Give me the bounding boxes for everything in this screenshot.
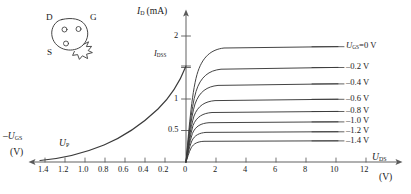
idss-subscript: DSS xyxy=(157,52,167,58)
curve-label-value: =0 V xyxy=(359,40,376,50)
y-axis-subscript: D xyxy=(140,10,144,16)
y-tick-0.5: 0.5 xyxy=(168,126,178,134)
x-right-tick-2: 2 xyxy=(213,166,217,174)
x-right-tick-12: 12 xyxy=(360,166,368,174)
output-curve-m14v xyxy=(186,141,338,162)
y-axis-label: ID(mA) xyxy=(137,6,167,17)
x-right-tick-4: 4 xyxy=(243,166,247,174)
curve-label-m04v: –0.4 V xyxy=(346,78,369,87)
x-left-axis-label: –UGS xyxy=(3,131,22,142)
x-left-symbol: U xyxy=(8,130,15,141)
curve-label-ugs-0v: UGS=0 V xyxy=(346,41,376,50)
curve-label-m10v: –1.0 V xyxy=(346,116,369,125)
x-left-tick-0.4: 0.4 xyxy=(138,166,148,174)
y-tick-2: 2 xyxy=(174,32,178,40)
x-right-subscript: DS xyxy=(379,156,387,162)
x-left-tick-1.2: 1.2 xyxy=(58,166,68,174)
figure-canvas: D G S ID(mA) 0.5 1 2 IDSS –UGS (V) UP 1.… xyxy=(0,0,411,194)
x-right-tick-0: 0 xyxy=(183,166,187,174)
output-curve-0v xyxy=(186,47,338,162)
x-left-tick-1.4: 1.4 xyxy=(38,166,48,174)
x-right-axis-unit: (V) xyxy=(379,172,392,182)
pinchoff-symbol: U xyxy=(59,137,66,148)
x-right-axis-label: UDS xyxy=(372,152,387,163)
x-left-axis-unit: (V) xyxy=(10,147,23,157)
pin-label-drain: D xyxy=(46,13,53,22)
label-leader-lines xyxy=(312,47,344,141)
pin-label-gate: G xyxy=(90,13,97,22)
x-right-tick-6: 6 xyxy=(273,166,277,174)
curve-label-m06v: –0.6 V xyxy=(346,94,369,103)
curve-label-m12v: –1.2 V xyxy=(346,126,369,135)
output-curve-m02v xyxy=(186,67,338,162)
y-tick-idss: IDSS xyxy=(154,50,166,58)
pin-label-source: S xyxy=(47,48,52,57)
curve-label-m14v: –1.4 V xyxy=(346,136,369,145)
curve-label-m08v: –0.8 V xyxy=(346,106,369,115)
y-tick-1: 1 xyxy=(174,95,178,103)
x-right-symbol: U xyxy=(372,151,379,162)
y-axis-unit: (mA) xyxy=(147,5,168,16)
jfet-package-symbol xyxy=(52,19,93,60)
output-curves xyxy=(186,47,338,162)
pinchoff-subscript: P xyxy=(66,142,69,148)
x-left-tick-0.8: 0.8 xyxy=(98,166,108,174)
curve-label-subscript: GS xyxy=(352,44,359,50)
output-curve-m10v xyxy=(186,122,338,162)
curve-label-m02v: –0.2 V xyxy=(346,62,369,71)
output-curve-m06v xyxy=(186,99,338,162)
pinchoff-label: UP xyxy=(59,138,69,149)
x-left-tick-0.2: 0.2 xyxy=(158,166,168,174)
x-left-tick-0.6: 0.6 xyxy=(118,166,128,174)
x-right-tick-10: 10 xyxy=(330,166,338,174)
x-left-tick-1.0: 1.0 xyxy=(78,166,88,174)
x-right-tick-8: 8 xyxy=(303,166,307,174)
x-left-subscript: GS xyxy=(15,135,23,141)
output-curve-m08v xyxy=(186,111,338,162)
output-curve-m12v xyxy=(186,132,338,162)
